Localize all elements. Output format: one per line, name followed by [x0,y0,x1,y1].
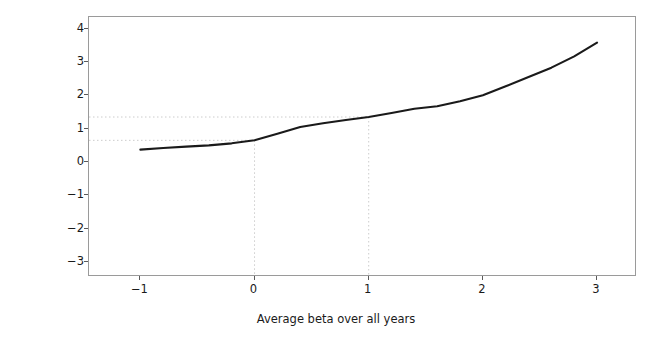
x-tick-label: 1 [348,282,388,296]
x-tick-label: −1 [119,282,159,296]
guide-lines [89,117,369,277]
plot-svg [89,17,637,277]
y-tick-mark [84,128,88,129]
x-tick-label: 0 [234,282,274,296]
y-tick-mark [84,228,88,229]
x-tick-labels: −10123 [88,282,636,298]
y-tick-label: 2 [58,88,84,100]
x-tick-mark [482,276,483,280]
y-tick-mark [84,194,88,195]
x-tick-mark [368,276,369,280]
x-tick-label: 3 [576,282,616,296]
x-tick-mark [596,276,597,280]
chart-container: Average monthly RoR, in % −3−2−101234 −1… [0,0,672,349]
plot-area [88,16,636,276]
y-tick-mark [84,161,88,162]
y-tick-label: −2 [58,222,84,234]
x-axis-label: Average beta over all years [0,312,672,326]
x-tick-label: 2 [462,282,502,296]
y-tick-label: −1 [58,188,84,200]
y-tick-mark [84,28,88,29]
x-tick-mark [254,276,255,280]
y-tick-mark [84,261,88,262]
y-tick-label: −3 [58,255,84,267]
y-tick-mark [84,94,88,95]
y-tick-label: 3 [58,55,84,67]
y-tick-mark [84,61,88,62]
y-tick-labels: −3−2−101234 [54,16,84,276]
y-tick-label: 1 [58,122,84,134]
y-tick-label: 4 [58,22,84,34]
x-tick-mark [139,276,140,280]
y-tick-label: 0 [58,155,84,167]
